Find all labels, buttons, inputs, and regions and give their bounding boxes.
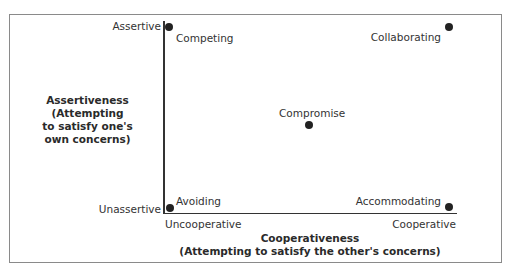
assertive-label: Assertive	[112, 20, 161, 32]
unassertive-label: Unassertive	[99, 203, 161, 215]
collaborating-label: Collaborating	[371, 31, 441, 43]
collaborating-dot	[445, 23, 453, 31]
accommodating-label: Accommodating	[356, 195, 441, 207]
competing-label: Competing	[176, 32, 233, 44]
avoiding-label: Avoiding	[176, 195, 221, 207]
assertiveness-title-line: Assertiveness	[20, 94, 155, 107]
compromise-dot	[305, 121, 313, 129]
competing-dot	[165, 23, 173, 31]
cooperativeness-title-line: Cooperativeness	[160, 232, 460, 245]
compromise-label: Compromise	[279, 107, 345, 119]
cooperative-label: Cooperative	[392, 218, 456, 230]
assertiveness-axis-line	[163, 21, 165, 214]
uncooperative-label: Uncooperative	[165, 218, 242, 230]
avoiding-dot	[166, 204, 174, 212]
cooperativeness-title-line: (Attempting to satisfy the other's conce…	[160, 245, 460, 258]
assertiveness-axis-title: Assertiveness (Attempting to satisfy one…	[20, 94, 155, 146]
assertiveness-title-line: (Attempting	[20, 107, 155, 120]
accommodating-dot	[445, 203, 453, 211]
cooperativeness-axis-line	[163, 213, 457, 215]
assertiveness-title-line: to satisfy one's	[20, 120, 155, 133]
assertiveness-title-line: own concerns)	[20, 133, 155, 146]
cooperativeness-axis-title: Cooperativeness (Attempting to satisfy t…	[160, 232, 460, 258]
